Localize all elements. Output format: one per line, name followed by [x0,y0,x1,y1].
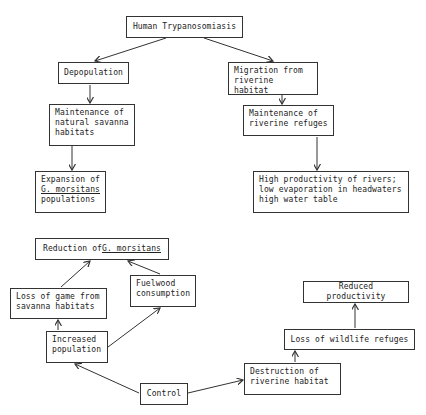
arrow-game-to-reduction [61,261,90,287]
arrow-root-to-depopulation [95,38,166,61]
arrow-control-to-population [75,364,139,393]
arrow-fuelwood-to-reduction [128,261,160,274]
node-increased-population: Increased population [46,331,108,363]
node-human-trypanosomiasis: Human Trypanosomiasis [126,16,243,38]
arrow-population-to-fuelwood [108,308,160,347]
node-loss-wildlife-refuges: Loss of wildlife refuges [284,329,415,350]
arrow-control-to-destruction [188,380,243,393]
node-fuelwood: Fuelwood consumption [130,275,196,307]
node-maintenance-refuges: Maintenance of riverine refuges [243,105,334,136]
node-migration-riverine: Migration from riverine habitat [228,62,318,95]
node-destruction-riverine: Destruction of riverine habitat [244,363,341,395]
node-depopulation: Depopulation [58,62,129,84]
node-loss-of-game: Loss of game from savanna habitats [10,288,107,319]
node-maintenance-savanna: Maintenance of natural savanna habitats [49,104,135,146]
node-expansion-g-morsitans: Expansion of G. morsitans populations [35,171,106,213]
node-control: Control [140,383,188,405]
arrow-root-to-migration [204,38,273,61]
node-reduction-g-morsitans: Reduction of G. morsitans [35,238,169,260]
species-name: G. morsitans [102,244,161,254]
node-reduced-productivity: Reduced productivity [303,281,409,303]
node-high-productivity: High productivity of rivers; low evapora… [253,171,409,213]
species-name: G. morsitans [41,185,100,194]
